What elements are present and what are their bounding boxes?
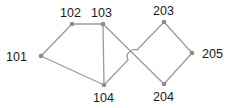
- edge-101-104: [41, 56, 104, 85]
- node-label-102: 102: [60, 6, 81, 20]
- network-diagram: 101 102 103 104 203 205 204: [0, 0, 232, 108]
- node-204[interactable]: [162, 82, 167, 87]
- node-label-204: 204: [153, 90, 174, 104]
- edge-101-102: [41, 24, 72, 56]
- node-label-103: 103: [91, 6, 112, 20]
- edge-203-205: [164, 22, 192, 53]
- node-102[interactable]: [70, 22, 75, 27]
- node-label-203: 203: [153, 4, 174, 18]
- node-label-205: 205: [202, 47, 223, 61]
- edge-103-204: [103, 24, 164, 84]
- node-label-101: 101: [6, 50, 27, 64]
- edges: [41, 22, 192, 85]
- node-label-104: 104: [93, 91, 114, 105]
- node-205[interactable]: [190, 51, 195, 56]
- edge-205-204: [164, 53, 192, 84]
- node-101[interactable]: [39, 54, 44, 59]
- node-104[interactable]: [102, 83, 107, 88]
- node-103[interactable]: [101, 22, 106, 27]
- edge-103-104: [103, 24, 104, 85]
- node-203[interactable]: [162, 20, 167, 25]
